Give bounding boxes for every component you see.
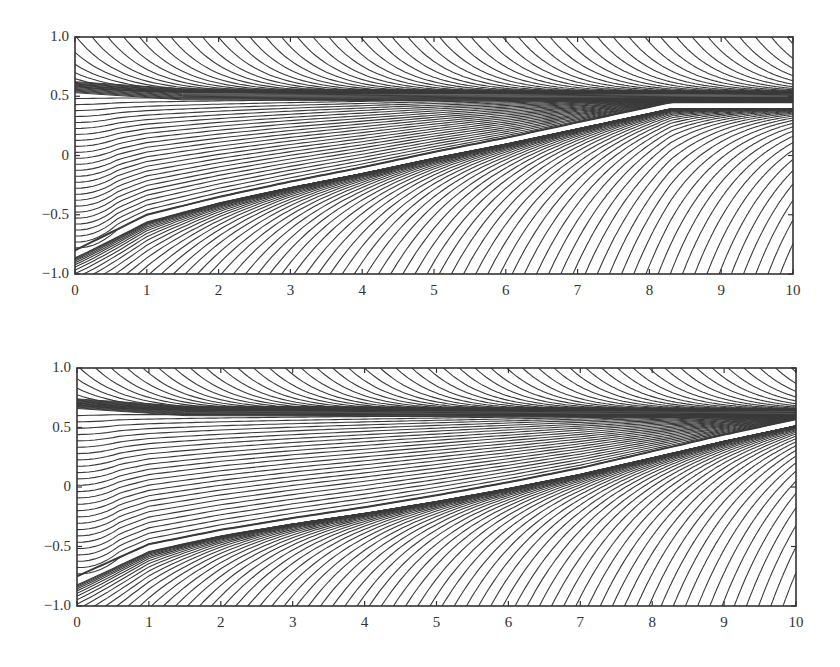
x-tick-label: 5 bbox=[422, 615, 452, 630]
y-tick-label: 1.0 bbox=[11, 360, 71, 375]
solution-curve bbox=[688, 359, 796, 406]
x-tick-label: 10 bbox=[781, 615, 811, 630]
bottom-chart-plot bbox=[0, 0, 840, 667]
solution-curve bbox=[231, 426, 796, 612]
x-tick-label: 6 bbox=[493, 615, 523, 630]
solution-curve bbox=[751, 359, 796, 391]
solution-curve bbox=[757, 526, 797, 613]
y-tick-label: 0 bbox=[11, 479, 71, 494]
y-tick-label: 0.5 bbox=[11, 420, 71, 435]
solution-curve bbox=[353, 426, 796, 612]
solution-curve bbox=[767, 359, 796, 383]
x-tick-label: 2 bbox=[206, 615, 236, 630]
x-tick-label: 7 bbox=[565, 615, 595, 630]
x-tick-label: 3 bbox=[278, 615, 308, 630]
solution-curve bbox=[769, 547, 796, 612]
x-tick-label: 8 bbox=[637, 615, 667, 630]
x-tick-label: 4 bbox=[350, 615, 380, 630]
solution-curve bbox=[796, 356, 799, 359]
solution-curve bbox=[657, 359, 797, 408]
solution-curve bbox=[736, 359, 796, 397]
solution-curve bbox=[512, 427, 796, 612]
x-tick-label: 9 bbox=[709, 615, 739, 630]
solution-curve bbox=[646, 442, 796, 612]
solution-curve bbox=[783, 359, 796, 372]
x-tick-label: 1 bbox=[134, 615, 164, 630]
solution-curve bbox=[316, 426, 796, 612]
y-tick-label: −0.5 bbox=[11, 539, 71, 554]
x-tick-label: 0 bbox=[62, 615, 92, 630]
bottom-chart-panel: 0123456789101.00.50−0.5−1.0 bbox=[0, 0, 840, 667]
y-tick-label: −1.0 bbox=[11, 598, 71, 613]
solution-curves bbox=[77, 356, 805, 642]
solution-curve bbox=[610, 434, 796, 612]
solution-curve bbox=[732, 493, 796, 612]
